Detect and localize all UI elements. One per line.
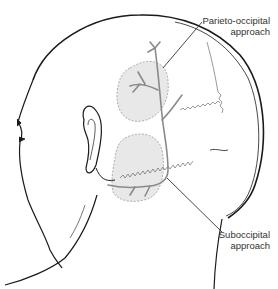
skull-mark <box>210 149 228 150</box>
label-line-2: approach <box>202 26 270 37</box>
eye <box>19 137 25 142</box>
suboccipital-label: Suboccipital approach <box>219 229 270 251</box>
upper-suture <box>180 101 220 110</box>
ear <box>83 106 101 173</box>
sagittal-suture <box>207 42 223 113</box>
parieto-occipital-label: Parieto-occipital approach <box>202 15 270 37</box>
neck-line <box>5 195 97 285</box>
neck-inner-line <box>70 205 85 238</box>
parieto-occipital-region <box>117 61 168 121</box>
suboccipital-region <box>112 134 164 201</box>
label-line-1: Parieto-occipital <box>202 15 270 26</box>
face-profile <box>18 80 62 268</box>
label-line-2: approach <box>219 240 270 251</box>
skull-inner-outline <box>175 22 259 216</box>
label-line-1: Suboccipital <box>219 229 270 240</box>
parieto-leader-line <box>163 22 202 68</box>
suboccipital-leader-line <box>167 178 222 232</box>
